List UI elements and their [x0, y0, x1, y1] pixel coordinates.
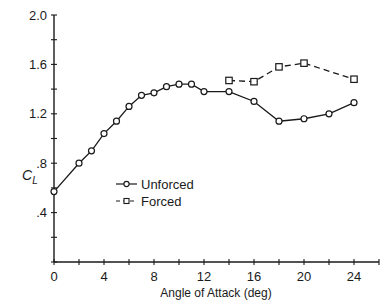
square-marker-icon	[301, 60, 307, 66]
circle-marker-icon	[189, 81, 195, 87]
square-marker-icon	[276, 64, 282, 70]
circle-marker-icon	[151, 90, 157, 96]
square-marker-icon	[226, 77, 232, 83]
square-marker-icon	[351, 76, 357, 82]
circle-marker-icon	[164, 84, 170, 90]
legend-item-forced: Forced	[116, 194, 181, 209]
circle-marker-icon	[76, 160, 82, 166]
circle-marker-icon	[101, 131, 107, 137]
x-tick-label: 20	[297, 269, 311, 284]
x-tick-label: 12	[197, 269, 211, 284]
circle-marker-icon	[139, 92, 145, 98]
x-tick-label: 4	[100, 269, 107, 284]
circle-marker-icon	[251, 98, 257, 104]
y-axis-label-sub: L	[32, 175, 38, 186]
y-tick-label: 2.0	[29, 8, 47, 23]
axes	[54, 15, 379, 262]
series-unforced	[51, 81, 357, 194]
x-tick-label: 24	[347, 269, 361, 284]
square-marker-icon	[124, 199, 129, 204]
y-tick-label: .4	[36, 205, 47, 220]
x-tick-label: 0	[50, 269, 57, 284]
circle-marker-icon	[201, 89, 207, 95]
legend-item-unforced: Unforced	[116, 177, 194, 192]
circle-marker-icon	[326, 111, 332, 117]
series-line	[54, 84, 354, 191]
circle-marker-icon	[51, 189, 57, 195]
circle-marker-icon	[124, 181, 129, 186]
lift-coefficient-chart: .4.81.21.62.004812162024 CL Angle of Att…	[0, 0, 391, 305]
x-tick-label: 16	[247, 269, 261, 284]
circle-marker-icon	[89, 148, 95, 154]
circle-marker-icon	[351, 100, 357, 106]
series-line	[229, 63, 354, 82]
axis-ticks: .4.81.21.62.004812162024	[29, 8, 379, 285]
square-marker-icon	[251, 78, 257, 84]
y-tick-label: 1.2	[29, 106, 47, 121]
circle-marker-icon	[301, 116, 307, 122]
x-tick-label: 8	[150, 269, 157, 284]
legend: Unforced Forced	[116, 177, 194, 209]
y-tick-label: 1.6	[29, 57, 47, 72]
circle-marker-icon	[114, 118, 120, 124]
circle-marker-icon	[276, 118, 282, 124]
legend-label-forced: Forced	[141, 194, 181, 209]
series-layer	[51, 60, 357, 195]
circle-marker-icon	[176, 81, 182, 87]
x-axis-label: Angle of Attack (deg)	[160, 286, 271, 300]
circle-marker-icon	[126, 103, 132, 109]
circle-marker-icon	[226, 89, 232, 95]
series-forced	[226, 60, 357, 85]
y-tick-label: .8	[36, 156, 47, 171]
legend-label-unforced: Unforced	[141, 177, 194, 192]
